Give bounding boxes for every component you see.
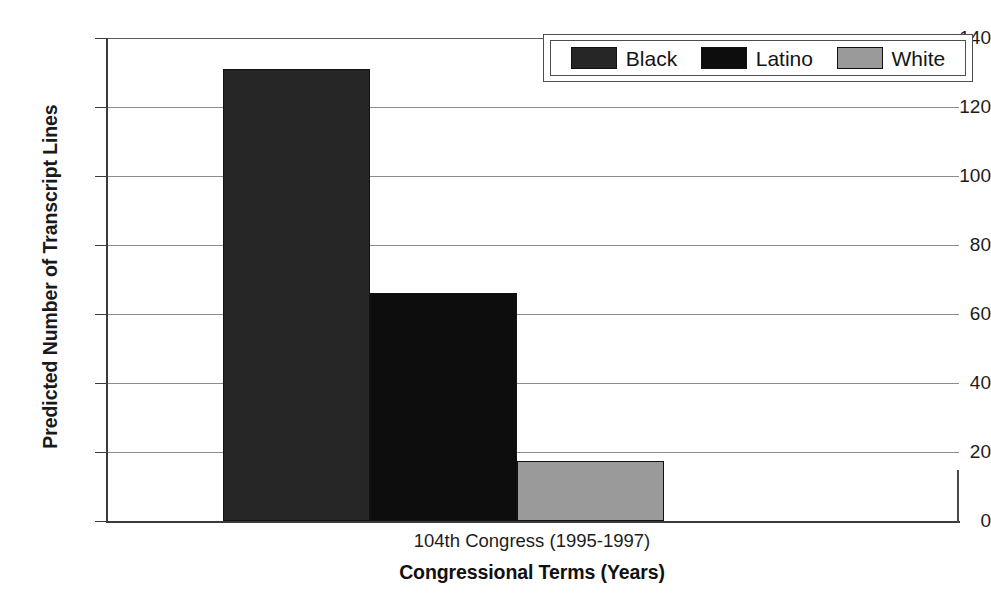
- bar-latino: [370, 293, 517, 521]
- x-axis-title: Congressional Terms (Years): [106, 561, 958, 584]
- legend-swatch-white: [837, 47, 883, 69]
- bar-black: [223, 69, 370, 521]
- legend-item-black: Black: [571, 47, 677, 69]
- legend-label: Latino: [756, 48, 813, 69]
- legend-item-white: White: [837, 47, 946, 69]
- bars-group: [0, 0, 991, 594]
- legend: BlackLatinoWhite: [543, 34, 973, 82]
- legend-items-container: BlackLatinoWhite: [550, 40, 966, 76]
- bar-white: [517, 461, 664, 521]
- legend-item-latino: Latino: [701, 47, 813, 69]
- legend-swatch-black: [571, 47, 617, 69]
- x-axis-tick-label: 104th Congress (1995-1997): [106, 530, 958, 552]
- legend-swatch-latino: [701, 47, 747, 69]
- legend-label: Black: [626, 48, 677, 69]
- legend-label: White: [892, 48, 946, 69]
- bar-chart-figure: Predicted Number of Transcript Lines 020…: [0, 0, 991, 594]
